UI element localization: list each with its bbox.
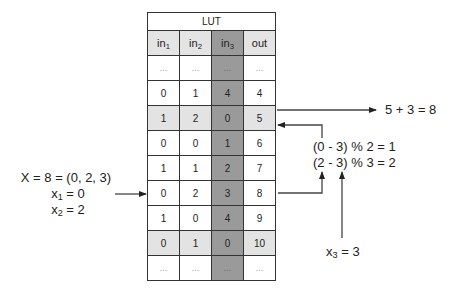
index-to-row-arrow <box>278 125 322 138</box>
input-x2-label: x2 = 2 <box>22 202 114 218</box>
input-x-label: X = 8 = (0, 2, 3) <box>18 170 114 186</box>
x3-annotation: x3 = 3 <box>326 244 360 260</box>
input-annotation: X = 8 = (0, 2, 3) x1 = 0 x2 = 2 <box>22 170 114 218</box>
calc-line-2: (2 - 3) % 3 = 2 <box>313 155 396 171</box>
calc-line-1: (0 - 3) % 2 = 1 <box>313 139 396 155</box>
input-x1-label: x1 = 0 <box>22 186 114 202</box>
row8-to-calc-arrow <box>278 172 322 193</box>
result-annotation: 5 + 3 = 8 <box>385 102 436 118</box>
index-calc-annotation: (0 - 3) % 2 = 1 (2 - 3) % 3 = 2 <box>313 139 396 171</box>
